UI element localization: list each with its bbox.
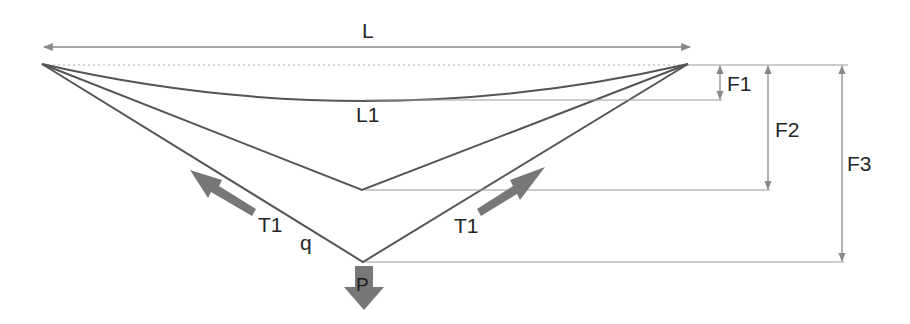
tension-left-arrow [190, 170, 256, 216]
cable-sag-diagram: L L1 F1 F2 F3 T1 q T1 P [0, 0, 910, 324]
cable-length-label: L1 [356, 103, 379, 126]
tension-right-arrow-shape [477, 167, 545, 216]
f3-label: F3 [847, 152, 872, 175]
f2-label: F2 [775, 118, 800, 141]
tension-right-arrow [477, 167, 545, 216]
distributed-load-label: q [300, 231, 312, 254]
tension-left-label: T1 [258, 213, 283, 236]
point-load-label: P [356, 274, 369, 295]
lower-v-cable [42, 64, 688, 262]
f1-label: F1 [727, 72, 752, 95]
catenary-curve [42, 64, 688, 101]
tension-right-label: T1 [454, 214, 479, 237]
span-label: L [362, 19, 374, 42]
tension-left-arrow-shape [190, 170, 256, 216]
